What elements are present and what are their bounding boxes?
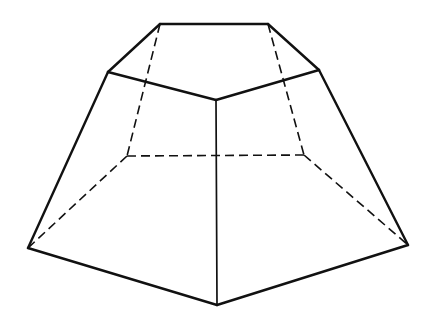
visible-edge-top_back_left-top_left [108, 24, 160, 72]
hidden-edge-bottom_back_left-bottom_left [28, 156, 127, 248]
pentagonal-frustum-diagram [0, 0, 436, 323]
visible-edge-bottom_left-bottom_front [28, 248, 217, 305]
hidden-edge-bottom_back_right-bottom_right [304, 155, 408, 245]
visible-edge-top_back_right-top_right [268, 24, 319, 70]
visible-edge-top_right-bottom_right [319, 70, 408, 245]
front-edge-top_front-bottom_front [216, 100, 217, 305]
hidden-edge-top_back_right-bottom_back_right [268, 24, 304, 155]
visible-edge-top_right-top_front [216, 70, 319, 100]
visible-edge-top_left-top_front [108, 72, 216, 100]
hidden-edges-group [28, 24, 408, 248]
visible-edge-top_left-bottom_left [28, 72, 108, 248]
hidden-edge-top_back_left-bottom_back_left [127, 24, 160, 156]
visible-edges-group [28, 24, 408, 305]
diagram-canvas [0, 0, 436, 323]
visible-edge-bottom_right-bottom_front [217, 245, 408, 305]
